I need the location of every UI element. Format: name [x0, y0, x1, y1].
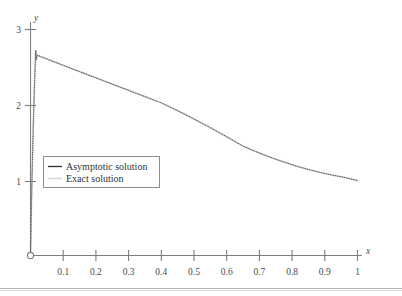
legend: Asymptotic solution Exact solution [44, 157, 160, 188]
y-tick-label-1: 1 [16, 177, 21, 187]
line-chart: 3 2 1 y 0.1 0.2 0.3 0 [0, 0, 402, 296]
legend-label-asymptotic: Asymptotic solution [66, 161, 147, 172]
x-tick-label-0.2: 0.2 [90, 267, 102, 277]
x-axis-group: 0.1 0.2 0.3 0.4 0.5 0.6 0.7 0.8 0.9 1 x [31, 246, 372, 277]
y-tick-label-3: 3 [16, 25, 21, 35]
x-tick-label-0.3: 0.3 [123, 267, 135, 277]
figure-container: 3 2 1 y 0.1 0.2 0.3 0 [0, 0, 402, 296]
origin-marker [27, 252, 33, 258]
x-tick-label-1: 1 [355, 267, 360, 277]
series-group [31, 50, 358, 255]
x-axis-label: x [365, 246, 371, 256]
x-tick-labels: 0.1 0.2 0.3 0.4 0.5 0.6 0.7 0.8 0.9 1 [57, 267, 360, 277]
series-exact-solution [31, 50, 358, 255]
x-tick-label-0.8: 0.8 [286, 267, 298, 277]
page-divider [0, 289, 402, 291]
y-tick-label-2: 2 [16, 101, 21, 111]
legend-label-exact: Exact solution [66, 173, 124, 184]
y-axis-group: 3 2 1 y [16, 13, 39, 256]
series-asymptotic-solution [31, 50, 358, 255]
x-tick-label-0.6: 0.6 [221, 267, 233, 277]
x-tick-label-0.5: 0.5 [188, 267, 200, 277]
x-tick-label-0.7: 0.7 [253, 267, 265, 277]
x-tick-label-0.9: 0.9 [319, 267, 331, 277]
x-tick-label-0.4: 0.4 [155, 267, 167, 277]
y-axis-label: y [33, 13, 39, 23]
x-tick-label-0.1: 0.1 [57, 267, 69, 277]
